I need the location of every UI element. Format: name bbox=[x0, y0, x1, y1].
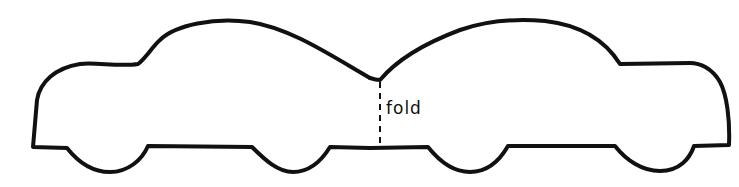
left-car-outline bbox=[33, 21, 370, 172]
fold-label: fold bbox=[386, 98, 422, 118]
car-outline-drawing bbox=[0, 0, 739, 187]
car-template: fold bbox=[0, 0, 739, 187]
right-car-outline bbox=[370, 20, 729, 172]
